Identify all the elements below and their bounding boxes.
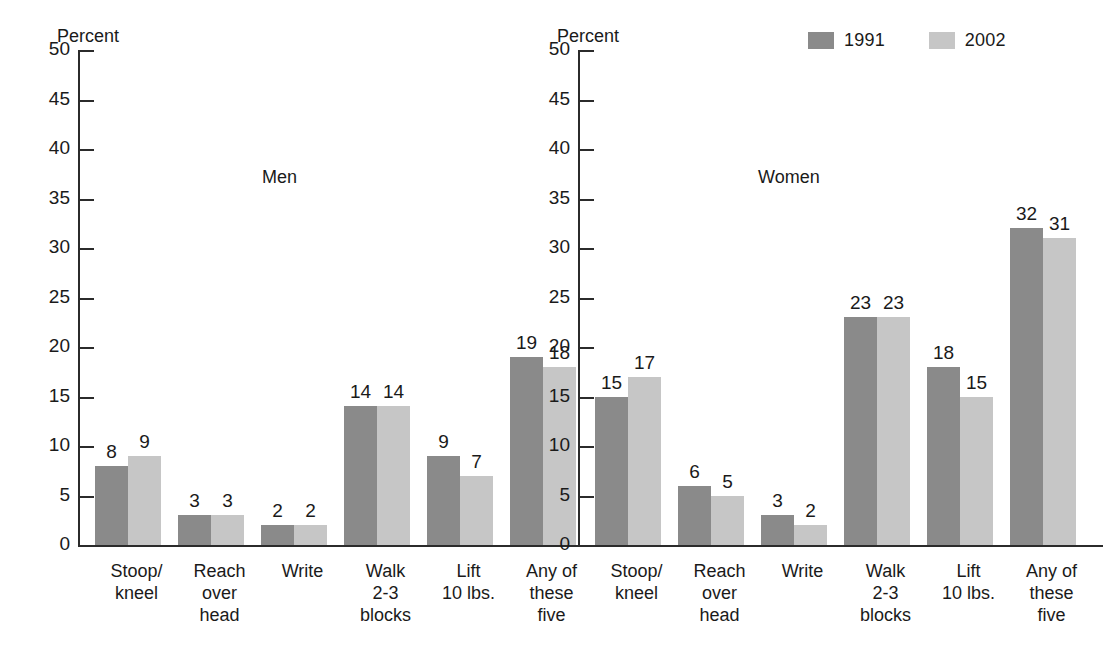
bar-value-label: 31 — [1043, 213, 1076, 235]
y-axis-tick-label: 50 — [530, 38, 570, 60]
y-axis-tick-label: 5 — [530, 484, 570, 506]
bar-value-label: 32 — [1010, 203, 1043, 225]
bar-value-label: 2 — [794, 500, 827, 522]
y-axis-tick-label: 10 — [30, 434, 70, 456]
bar-value-label: 15 — [960, 372, 993, 394]
y-axis-tick-label: 20 — [530, 335, 570, 357]
y-axis-tick-label: 15 — [30, 385, 70, 407]
panel-women: Percent Women 504540353025201510501517St… — [500, 0, 1068, 651]
panel-title-women: Women — [758, 167, 820, 188]
bar-2002 — [294, 525, 327, 545]
bar-2002 — [877, 317, 910, 545]
bar-value-label: 17 — [628, 352, 661, 374]
y-axis-tick — [580, 248, 594, 250]
y-axis-tick-label: 25 — [530, 286, 570, 308]
bar-value-label: 15 — [595, 372, 628, 394]
y-axis-tick — [580, 50, 594, 52]
bar-value-label: 3 — [761, 490, 794, 512]
y-axis-tick — [80, 199, 94, 201]
bar-2002 — [794, 525, 827, 545]
y-axis-tick-label: 10 — [530, 434, 570, 456]
bar-2002 — [711, 496, 744, 546]
y-axis-tick-label: 40 — [530, 137, 570, 159]
y-axis-tick-label: 45 — [530, 88, 570, 110]
bar-2002 — [960, 397, 993, 546]
y-axis-tick-label: 15 — [530, 385, 570, 407]
bar-value-label: 3 — [178, 490, 211, 512]
panel-title-men: Men — [262, 167, 297, 188]
bar-value-label: 14 — [377, 381, 410, 403]
bar-value-label: 6 — [678, 461, 711, 483]
y-axis-tick — [580, 496, 594, 498]
x-axis-category-label: Reach over head — [675, 560, 764, 626]
x-axis-category-label: Stoop/ kneel — [92, 560, 181, 604]
y-axis-tick-label: 0 — [30, 533, 70, 555]
y-axis-tick — [80, 496, 94, 498]
y-axis-tick — [80, 149, 94, 151]
bar-1991 — [95, 466, 128, 545]
x-axis-category-label: Stoop/ kneel — [592, 560, 681, 604]
bar-value-label: 2 — [294, 500, 327, 522]
y-axis-tick — [580, 298, 594, 300]
bar-1991 — [344, 406, 377, 545]
bar-2002 — [628, 377, 661, 545]
y-axis-tick — [80, 50, 94, 52]
y-axis-tick — [80, 298, 94, 300]
x-axis-line — [578, 545, 1103, 547]
x-axis-category-label: Write — [758, 560, 847, 582]
y-axis-tick — [80, 100, 94, 102]
y-axis-tick-label: 25 — [30, 286, 70, 308]
y-axis-tick — [580, 397, 594, 399]
y-axis-tick-label: 20 — [30, 335, 70, 357]
bar-1991 — [427, 456, 460, 545]
y-axis-tick — [80, 347, 94, 349]
y-axis-tick-label: 35 — [530, 187, 570, 209]
bar-value-label: 23 — [877, 292, 910, 314]
bar-value-label: 14 — [344, 381, 377, 403]
bar-1991 — [844, 317, 877, 545]
bar-value-label: 3 — [211, 490, 244, 512]
bar-1991 — [927, 367, 960, 545]
bar-1991 — [595, 397, 628, 546]
y-axis-tick — [580, 100, 594, 102]
x-axis-category-label: Walk 2-3 blocks — [341, 560, 430, 626]
y-axis-tick — [580, 347, 594, 349]
bar-1991 — [178, 515, 211, 545]
bar-value-label: 23 — [844, 292, 877, 314]
bar-value-label: 9 — [427, 431, 460, 453]
x-axis-category-label: Lift 10 lbs. — [924, 560, 1013, 604]
bar-1991 — [1010, 228, 1043, 545]
bar-value-label: 9 — [128, 431, 161, 453]
panel-men: Percent Men 5045403530252015105089Stoop/… — [0, 0, 540, 651]
y-axis-tick-label: 35 — [30, 187, 70, 209]
y-axis-tick — [580, 446, 594, 448]
bar-value-label: 18 — [927, 342, 960, 364]
y-axis-tick-label: 0 — [530, 533, 570, 555]
bar-2002 — [377, 406, 410, 545]
bar-value-label: 5 — [711, 471, 744, 493]
y-axis-tick-label: 30 — [530, 236, 570, 258]
y-axis-tick — [580, 199, 594, 201]
y-axis-tick — [80, 248, 94, 250]
x-axis-category-label: Reach over head — [175, 560, 264, 626]
bar-2002 — [1043, 238, 1076, 545]
y-axis-tick — [580, 149, 594, 151]
bar-2002 — [211, 515, 244, 545]
y-axis-tick-label: 40 — [30, 137, 70, 159]
bar-value-label: 2 — [261, 500, 294, 522]
x-axis-category-label: Write — [258, 560, 347, 582]
bar-1991 — [261, 525, 294, 545]
bar-value-label: 7 — [460, 451, 493, 473]
y-axis-tick-label: 30 — [30, 236, 70, 258]
x-axis-category-label: Any of these five — [1007, 560, 1096, 626]
bar-2002 — [460, 476, 493, 545]
bar-value-label: 8 — [95, 441, 128, 463]
y-axis-tick-label: 45 — [30, 88, 70, 110]
y-axis-tick — [80, 397, 94, 399]
y-axis-tick — [80, 446, 94, 448]
bar-1991 — [678, 486, 711, 545]
x-axis-category-label: Walk 2-3 blocks — [841, 560, 930, 626]
bar-2002 — [128, 456, 161, 545]
bar-1991 — [761, 515, 794, 545]
